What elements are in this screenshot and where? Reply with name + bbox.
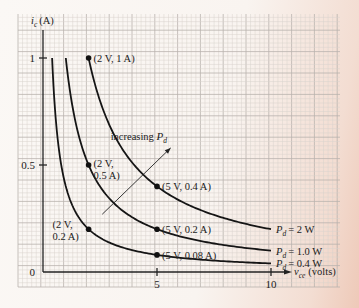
data-point — [86, 162, 92, 168]
y-tick-label: 1 — [30, 52, 36, 64]
curve-label: Pd= 2 W — [275, 224, 314, 238]
y-tick-label: 0 — [30, 266, 36, 278]
curve-label-sub: d — [282, 263, 286, 272]
data-point-label: 0.2 A) — [53, 231, 80, 243]
data-point-label: 0.5 A) — [94, 170, 121, 182]
y-axis-label: ic(A) — [31, 15, 54, 29]
x-tick-label: 5 — [154, 278, 160, 290]
y-tick-label: 0.5 — [21, 159, 35, 171]
data-point-label: (5 V, 0.2 A) — [162, 224, 211, 236]
y-label-unit: (A) — [39, 15, 54, 27]
x-tick-label: 10 — [266, 278, 278, 290]
curve-pd-2w — [89, 58, 271, 229]
y-label-sub: c — [34, 20, 38, 29]
data-point — [86, 55, 92, 61]
increasing-text: increasing — [111, 131, 157, 142]
data-point-label: (2 V, — [53, 219, 73, 231]
data-point-label: (2 V, 1 A) — [94, 53, 136, 65]
data-point — [154, 184, 160, 190]
data-point-label: (2 V, — [94, 158, 114, 170]
data-point-label: (5 V, 0.4 A) — [162, 181, 211, 193]
curve-label-sub: d — [282, 229, 286, 238]
data-point-label: (5 V, 0.08 A) — [162, 250, 217, 262]
data-point — [154, 252, 160, 258]
x-label-unit: (volts) — [308, 266, 336, 278]
curve-label-sub: d — [282, 251, 286, 260]
data-point — [86, 226, 92, 232]
curve-label-value: = 1.0 W — [288, 246, 322, 257]
power-hyperbola-chart: 51000.51 Pd= 2 WPd= 1.0 WPd= 0.4 W (2 V,… — [0, 0, 359, 308]
x-label-sub: ce — [299, 271, 306, 280]
data-point — [154, 226, 160, 232]
increasing-symbol-sub: d — [163, 136, 167, 145]
curve-label-value: = 2 W — [288, 224, 314, 235]
